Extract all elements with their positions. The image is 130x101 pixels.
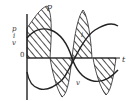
power-lobe-1 (27, 6, 51, 58)
voltage-label: v (76, 79, 80, 87)
waveform-diagram: p p i v 0 i v t (0, 0, 130, 101)
power-lobe-2 (50, 58, 72, 97)
origin-label: 0 (20, 51, 24, 59)
time-label: t (122, 55, 126, 64)
power-lobe-4 (93, 58, 116, 95)
axis-label-v: v (12, 39, 16, 47)
current-label: i (81, 31, 83, 39)
power-label-top: p (47, 2, 52, 11)
